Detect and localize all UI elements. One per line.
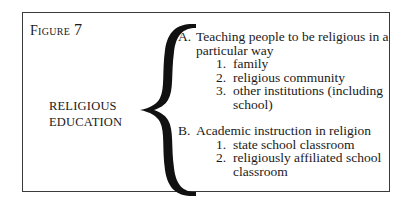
branch-a-title: Teaching people to be religious in a par…	[196, 30, 390, 57]
branch-b-title: Academic instruction in religion	[196, 124, 390, 138]
branch-a-items: 1. family 2. religious community 3. othe…	[178, 57, 390, 111]
list-item: 3. other institutions (including school)	[178, 84, 390, 111]
branch-a: A. Teaching people to be religious in a …	[178, 30, 390, 111]
list-item: 2. religiously affiliated school classro…	[178, 151, 390, 178]
list-item: 1. family	[178, 57, 390, 71]
root-concept: RELIGIOUS EDUCATION	[49, 98, 122, 130]
branch-b-items: 1. state school classroom 2. religiously…	[178, 138, 390, 179]
root-concept-line-1: RELIGIOUS	[49, 98, 122, 114]
figure-label-word: Figure	[30, 23, 70, 38]
figure-label-number: 7	[74, 21, 82, 38]
branch-b-letter: B.	[178, 124, 196, 138]
branch-b: B. Academic instruction in religion 1. s…	[178, 124, 390, 178]
root-concept-line-2: EDUCATION	[49, 114, 122, 130]
list-item: 1. state school classroom	[178, 138, 390, 152]
figure-label: Figure 7	[30, 21, 82, 39]
branch-a-letter: A.	[178, 30, 196, 57]
branch-list: A. Teaching people to be religious in a …	[178, 30, 390, 178]
list-item: 2. religious community	[178, 71, 390, 85]
